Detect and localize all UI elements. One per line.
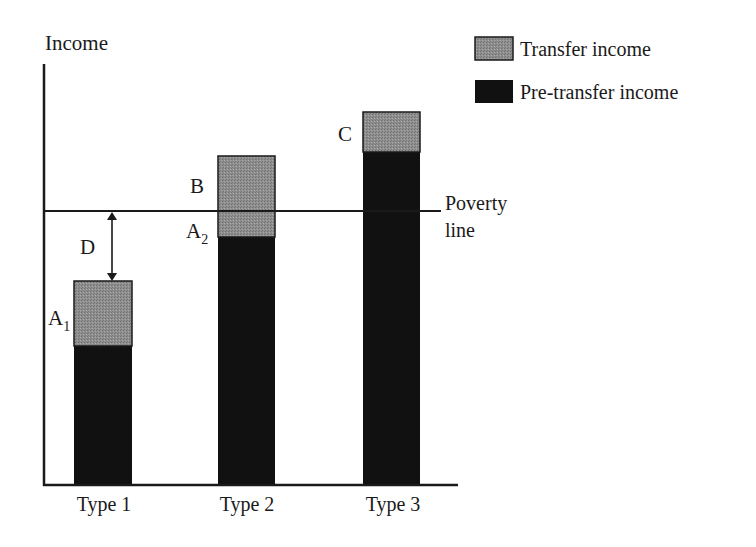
y-axis-label: Income	[45, 31, 108, 55]
annotation-b: B	[190, 174, 204, 198]
legend-label-transfer: Transfer income	[520, 38, 651, 60]
legend: Transfer income Pre-transfer income	[475, 37, 678, 103]
bar-type3-transfer	[363, 112, 420, 152]
gap-arrow-d	[107, 212, 117, 281]
annotation-c: C	[338, 122, 352, 146]
bar-type1-transfer	[74, 281, 132, 346]
legend-swatch-pre-transfer	[475, 80, 513, 103]
bar-type2-pre-transfer	[218, 237, 275, 485]
chart-canvas: Income Poverty line D A1 B A2 C Type 1 T…	[0, 0, 756, 547]
poverty-line-label-1: Poverty	[445, 192, 507, 215]
bars	[74, 112, 420, 485]
poverty-line-label-2: line	[445, 219, 475, 241]
x-tick-type1: Type 1	[77, 493, 132, 516]
bar-type1-pre-transfer	[74, 346, 132, 485]
bar-type3-pre-transfer	[363, 152, 420, 485]
annotation-d: D	[80, 235, 95, 259]
x-tick-type3: Type 3	[366, 493, 421, 516]
annotation-a2: A2	[186, 219, 208, 247]
legend-swatch-transfer	[475, 37, 513, 60]
x-tick-type2: Type 2	[220, 493, 275, 516]
annotation-a1: A1	[48, 306, 70, 334]
bar-type2-transfer	[218, 156, 275, 237]
legend-label-pre-transfer: Pre-transfer income	[520, 81, 678, 103]
